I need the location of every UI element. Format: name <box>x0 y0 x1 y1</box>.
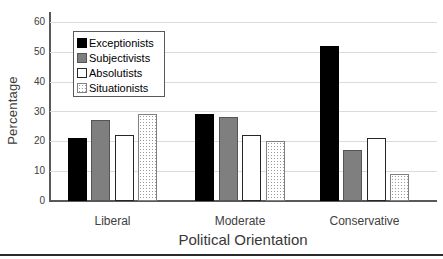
legend-item-situationists: Situationists <box>77 80 164 95</box>
bar-chart-figure: Percentage 0102030405060 ExceptionistsSu… <box>0 0 443 259</box>
bar-situationists-conservative <box>390 174 409 201</box>
figure-bottom-rule <box>0 254 443 256</box>
y-tick-label-30: 30 <box>0 106 45 118</box>
legend-label-situationists: Situationists <box>89 82 148 94</box>
legend-item-absolutists: Absolutists <box>77 65 164 80</box>
x-category-label-moderate: Moderate <box>180 214 300 228</box>
y-tick-label-60: 60 <box>0 16 45 28</box>
bar-exceptionists-moderate <box>195 114 214 201</box>
x-axis-title: Political Orientation <box>123 231 363 248</box>
legend-swatch-exceptionists-icon <box>77 38 87 48</box>
legend-label-absolutists: Absolutists <box>89 67 142 79</box>
bar-absolutists-conservative <box>367 138 386 201</box>
legend-swatch-absolutists-icon <box>77 68 87 78</box>
legend-swatch-subjectivists-icon <box>77 53 87 63</box>
bar-subjectivists-liberal <box>91 120 110 201</box>
bar-exceptionists-conservative <box>320 46 339 201</box>
legend-swatch-situationists-icon <box>77 83 87 93</box>
legend-label-exceptionists: Exceptionists <box>89 37 154 49</box>
bar-absolutists-liberal <box>115 135 134 201</box>
y-tick-label-10: 10 <box>0 165 45 177</box>
legend-label-subjectivists: Subjectivists <box>89 52 150 64</box>
y-tick-label-40: 40 <box>0 76 45 88</box>
y-tick-label-20: 20 <box>0 135 45 147</box>
bar-situationists-liberal <box>138 114 157 201</box>
legend: ExceptionistsSubjectivistsAbsolutistsSit… <box>73 31 165 97</box>
bar-situationists-moderate <box>266 141 285 201</box>
bar-subjectivists-conservative <box>343 150 362 201</box>
bar-exceptionists-liberal <box>68 138 87 201</box>
bar-subjectivists-moderate <box>219 117 238 201</box>
y-tick-label-0: 0 <box>0 195 45 207</box>
x-category-label-liberal: Liberal <box>53 214 173 228</box>
bar-absolutists-moderate <box>242 135 261 201</box>
gridline-30 <box>50 111 437 112</box>
legend-item-exceptionists: Exceptionists <box>77 35 164 50</box>
x-category-label-conservative: Conservative <box>305 214 425 228</box>
legend-item-subjectivists: Subjectivists <box>77 50 164 65</box>
gridline-60 <box>50 22 437 23</box>
y-tick-label-50: 50 <box>0 46 45 58</box>
